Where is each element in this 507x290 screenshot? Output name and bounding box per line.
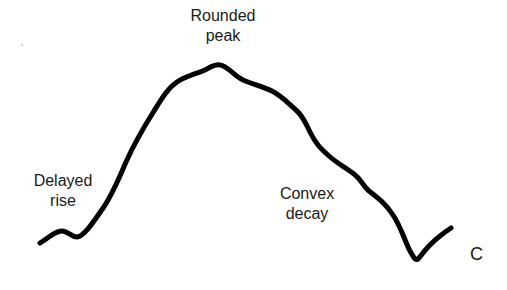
delayed-rise-label: Delayed rise (18, 171, 108, 211)
rounded-peak-label: Rounded peak (170, 6, 276, 46)
waveform-curve (40, 65, 451, 260)
rounded-peak-label-line2: peak (170, 26, 276, 46)
rounded-peak-label-line1: Rounded (170, 6, 276, 26)
panel-label: C (470, 244, 490, 264)
delayed-rise-label-line2: rise (18, 191, 108, 211)
convex-decay-label-line1: Convex (262, 184, 352, 204)
delayed-rise-label-line1: Delayed (18, 171, 108, 191)
convex-decay-label-line2: decay (262, 204, 352, 224)
convex-decay-label: Convex decay (262, 184, 352, 224)
